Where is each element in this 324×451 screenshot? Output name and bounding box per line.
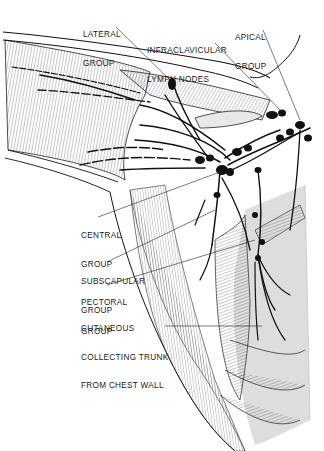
label-line: FROM CHEST WALL bbox=[81, 381, 168, 391]
label-line: COLLECTING TRUNK bbox=[81, 353, 168, 363]
label-line: LYMPH NODES bbox=[147, 75, 227, 85]
label-line: CENTRAL bbox=[81, 231, 121, 241]
node-apical bbox=[295, 121, 305, 129]
label-line: LATERAL bbox=[83, 30, 121, 40]
chest-wall bbox=[215, 185, 310, 445]
label-lateral-group: LATERAL GROUP bbox=[83, 11, 121, 78]
label-apical-group: APICAL GROUP bbox=[235, 14, 267, 81]
label-infraclavicular-lymph-nodes: INFRACLAVICULAR LYMPH NODES bbox=[147, 27, 227, 94]
label-cutaneous-collecting-trunk: CUTANEOUS COLLECTING TRUNK FROM CHEST WA… bbox=[81, 305, 168, 400]
label-line: INFRACLAVICULAR bbox=[147, 46, 227, 56]
label-line: CUTANEOUS bbox=[81, 324, 168, 334]
node-central bbox=[216, 165, 228, 175]
label-line: GROUP bbox=[83, 59, 121, 69]
node-infraclavicular bbox=[266, 111, 278, 119]
label-line: APICAL bbox=[235, 33, 267, 43]
label-line: GROUP bbox=[235, 62, 267, 72]
